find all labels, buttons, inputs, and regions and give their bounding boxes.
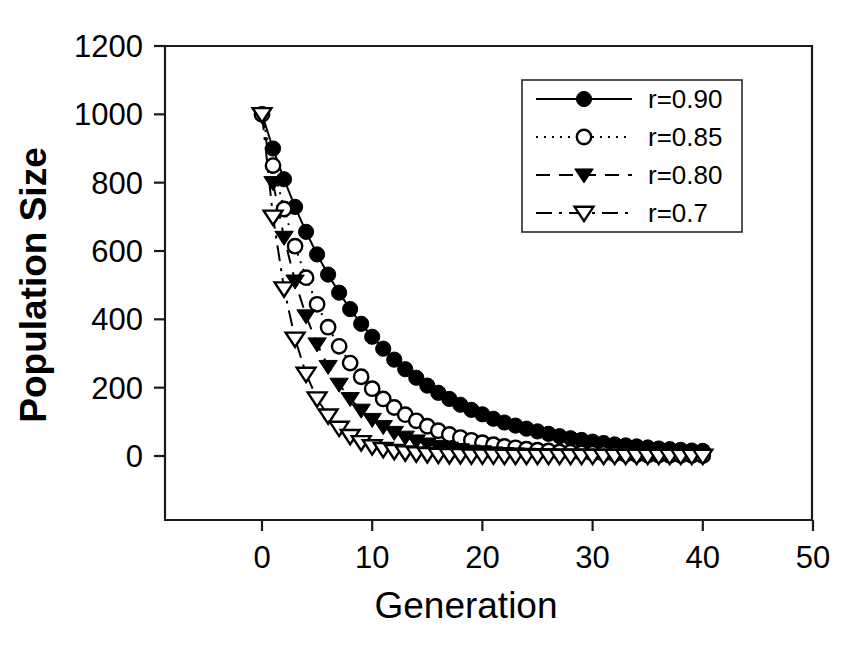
marker-filled-circle (265, 141, 280, 156)
marker-open-circle (332, 339, 346, 353)
x-tick-label: 40 (686, 540, 720, 575)
y-tick-label: 1200 (74, 29, 143, 64)
marker-filled-circle (365, 329, 380, 344)
marker-filled-circle (310, 247, 325, 262)
marker-open-circle (577, 130, 591, 144)
marker-filled-circle (343, 301, 358, 316)
y-tick-label: 200 (91, 371, 143, 406)
marker-filled-circle (298, 224, 313, 239)
marker-open-circle (354, 370, 368, 384)
y-tick-label: 600 (91, 234, 143, 269)
marker-open-circle (288, 239, 302, 253)
y-tick-label: 800 (91, 166, 143, 201)
x-tick-label: 30 (575, 540, 609, 575)
marker-filled-circle (332, 285, 347, 300)
marker-open-circle (343, 356, 357, 370)
y-tick-label: 0 (126, 439, 143, 474)
marker-open-circle (321, 320, 335, 334)
marker-filled-circle (576, 91, 591, 106)
chart-figure: 01020304050 020040060080010001200 r=0.90… (0, 0, 853, 662)
chart-legend: r=0.90r=0.85r=0.80r=0.7 (522, 80, 742, 232)
marker-filled-circle (321, 267, 336, 282)
legend-label: r=0.90 (648, 84, 722, 114)
marker-open-circle (310, 297, 324, 311)
y-tick-label: 1000 (74, 97, 143, 132)
legend-label: r=0.85 (648, 122, 722, 152)
y-axis-title: Population Size (13, 147, 54, 422)
marker-filled-circle (354, 316, 369, 331)
marker-open-circle (266, 158, 280, 172)
x-tick-label: 0 (253, 540, 270, 575)
x-tick-label: 50 (796, 540, 830, 575)
legend-label: r=0.7 (648, 198, 708, 228)
population-decay-chart: 01020304050 020040060080010001200 r=0.90… (0, 0, 853, 662)
x-axis-title: Generation (374, 585, 557, 626)
y-tick-label: 400 (91, 302, 143, 337)
x-tick-label: 10 (355, 540, 389, 575)
legend-label: r=0.80 (648, 160, 722, 190)
x-tick-label: 20 (465, 540, 499, 575)
